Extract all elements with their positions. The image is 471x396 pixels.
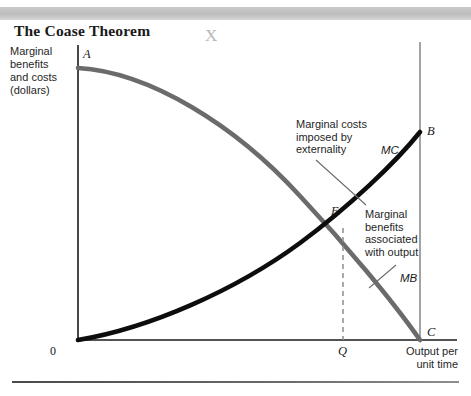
mc-curve-label: MC xyxy=(381,144,399,156)
y-axis-label: Marginal benefits and costs (dollars) xyxy=(10,45,76,97)
footer-rule xyxy=(12,381,459,383)
point-label-q: Q xyxy=(338,344,347,359)
point-label-b: B xyxy=(427,124,435,139)
mc-annotation-leader xyxy=(316,160,366,205)
mb-curve xyxy=(78,68,420,340)
mc-annotation-text: Marginal costs imposed by externality xyxy=(296,118,392,156)
origin-label: 0 xyxy=(50,344,56,359)
point-label-e: E xyxy=(331,204,339,219)
mb-annotation-text: Marginal benefits associated with output xyxy=(365,208,437,258)
coase-theorem-figure: The Coase Theorem X Marginal benefits an… xyxy=(0,0,471,396)
mb-curve-label: MB xyxy=(400,272,417,284)
point-label-a: A xyxy=(83,47,91,62)
x-axis-label: Output per unit time xyxy=(352,345,458,371)
point-label-c: C xyxy=(427,325,435,340)
